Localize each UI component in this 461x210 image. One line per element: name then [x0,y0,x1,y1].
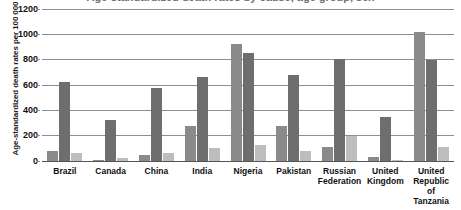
x-axis-tick-label: India [179,166,225,176]
y-axis-tick-label: 600 [4,81,38,90]
bar [288,75,299,161]
bar [117,158,128,161]
x-axis-tick-label: Pakistan [271,166,317,176]
y-axis-tick-label: 800 [4,55,38,64]
bar [334,59,345,161]
y-axis-tick-mark [36,161,40,162]
y-axis-tick-mark [36,85,40,86]
bar [231,44,242,161]
bar-group [276,9,311,161]
bar-group [231,9,266,161]
bar-group [185,9,220,161]
x-axis-tick-label: UnitedRepublicof Tanzania [408,166,454,206]
bar [93,160,104,161]
y-axis-tick-labels: 020040060080010001200 [0,9,38,161]
y-axis-tick-label: 200 [4,131,38,140]
bar-group [322,9,357,161]
bar [59,82,70,161]
y-axis-tick-label: 1000 [4,30,38,39]
bar [163,153,174,161]
bar [255,145,266,161]
bar [300,151,311,161]
plot-area [42,9,454,161]
x-axis-tick-label: Nigeria [225,166,271,176]
chart-title: Age-standardized death rates by cause, a… [0,0,461,3]
bar [47,151,58,161]
bar-group [414,9,449,161]
bar [139,155,150,161]
bar [346,136,357,161]
bar [368,157,379,161]
x-axis-tick-label: UnitedKingdom [362,166,408,186]
bar [380,117,391,161]
bar-group [368,9,403,161]
y-axis-tick-mark [36,135,40,136]
bar [105,120,116,161]
x-axis-tick-label: RussianFederation [317,166,363,186]
y-axis-tick-mark [36,110,40,111]
bar [426,60,437,161]
x-axis-tick-label: Brazil [42,166,88,176]
bar [243,53,254,161]
y-axis-tick-mark [36,9,40,10]
y-axis-tick-label: 400 [4,106,38,115]
bar [322,147,333,161]
bar [151,88,162,161]
bar [276,126,287,161]
bar [185,126,196,161]
bar-group [93,9,128,161]
x-axis-tick-label: Canada [88,166,134,176]
y-axis-tick-label: 1200 [4,5,38,14]
y-axis-tick-mark [36,34,40,35]
bar [438,147,449,161]
bar [71,153,82,161]
y-axis-tick-mark [36,59,40,60]
x-axis-tick-label: China [134,166,180,176]
bar-group [139,9,174,161]
bar-group [47,9,82,161]
x-axis-tick-labels: BrazilCanadaChinaIndiaNigeriaPakistanRus… [42,166,454,210]
bar [392,160,403,161]
bar [209,148,220,161]
y-axis-tick-label: 0 [4,157,38,166]
bar-chart-figure: Age-standardized death rates by cause, a… [0,0,461,210]
bar [197,77,208,161]
bar [414,32,425,161]
